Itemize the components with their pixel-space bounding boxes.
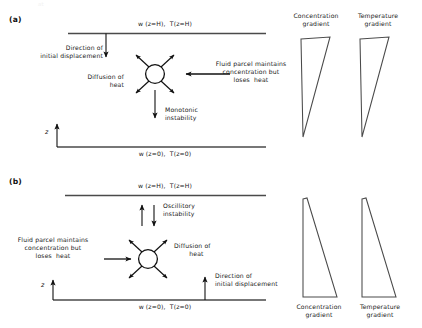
panel-b-tag: (b) (9, 177, 22, 186)
panel-b-concentration-gradient-label-line1: Concentration (288, 303, 350, 311)
panel-b-fluid-parcel (139, 250, 158, 269)
panel-b-concentration-gradient-triangle (303, 198, 337, 297)
panel-b-diffusion-arrow-nw (129, 240, 142, 252)
panel-b-diffusion-arrow-ne (154, 240, 167, 252)
panel-b-displacement-label-line1: Direction of (215, 272, 252, 280)
panel-a-displacement-label-line1: Direction of (8, 44, 103, 52)
panel-b-top-boundary-label: w (z=H), T(z=H) (105, 182, 225, 190)
panel-b-instability-label-line2: instability (163, 210, 194, 218)
panel-a-instability-label-line1: Monotonic (165, 106, 198, 114)
panel-a-temperature-gradient-label-line1: Temperature (349, 12, 407, 20)
panel-a-parcel-label-line2: concentration but (196, 68, 306, 76)
panel-a-fluid-parcel (146, 65, 165, 84)
panel-a-parcel-label-line3: loses heat (196, 76, 306, 84)
panel-a-vectors (57, 34, 389, 148)
panel-a-tag: (a) (9, 15, 22, 24)
panel-a-displacement-label-line2: initial displacement (8, 52, 103, 60)
panel-b-temperature-gradient-label-line2: gradient (350, 311, 410, 319)
panel-a-diffusion-arrow-se (161, 81, 174, 93)
panel-a-instability-label-line2: instability (165, 114, 196, 122)
panel-b-temperature-gradient-triangle (362, 198, 396, 297)
panel-a-diffusion-arrow-ne (161, 55, 174, 67)
panel-a-concentration-gradient-label-line1: Concentration (286, 12, 346, 20)
panel-b-parcel-label-line2: concentration but (2, 244, 104, 252)
panel-a-z-axis-label: z (45, 128, 48, 135)
panel-a-parcel-label-line1: Fluid parcel maintains (196, 60, 306, 68)
panel-b-diffusion-label-line1: Diffusion of (174, 242, 211, 250)
panel-b-displacement-label-line2: initial displacement (215, 280, 278, 288)
panel-a-diffusion-label-line2: heat (48, 81, 124, 89)
panel-b-temperature-gradient-label-line1: Temperature (350, 303, 410, 311)
panel-a-top-boundary-label: w (z=H), T(z=H) (105, 20, 225, 28)
panel-b-diffusion-label-line2: heat (174, 250, 219, 258)
panel-b-parcel-label-line1: Fluid parcel maintains (2, 236, 104, 244)
figure-root: at (0, 0, 422, 328)
panel-a-concentration-gradient-triangle (301, 37, 330, 137)
panel-a-temperature-gradient-triangle (360, 37, 389, 137)
panel-a-temperature-gradient-label-line2: gradient (349, 20, 407, 28)
panel-b-concentration-gradient-label-line2: gradient (288, 311, 350, 319)
panel-a-concentration-gradient-label-line2: gradient (286, 20, 346, 28)
panel-a-diffusion-label-line1: Diffusion of (48, 73, 124, 81)
panel-a-diffusion-arrow-sw (136, 81, 149, 93)
panel-b-parcel-label-line3: loses heat (2, 252, 104, 260)
panel-a-diffusion-arrow-nw (136, 55, 149, 67)
panel-b-z-axis-label: z (41, 281, 44, 288)
panel-b-bottom-boundary-label: w (z=0), T(z=0) (105, 303, 225, 311)
panel-b-diffusion-arrow-sw (129, 266, 142, 278)
panel-b-instability-label-line1: Oscillitory (163, 202, 195, 210)
panel-a-bottom-boundary-label: w (z=0), T(z=0) (105, 150, 225, 158)
panel-b-diffusion-arrow-se (154, 266, 167, 278)
